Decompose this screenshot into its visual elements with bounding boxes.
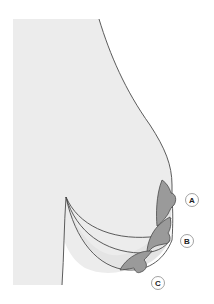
label-b: B	[181, 235, 194, 248]
svg-text:C: C	[155, 279, 161, 288]
label-c: C	[152, 277, 165, 290]
breast-ptosis-diagram: A B C	[0, 0, 214, 304]
svg-text:B: B	[184, 237, 190, 246]
svg-text:A: A	[189, 196, 195, 205]
label-a: A	[186, 194, 199, 207]
